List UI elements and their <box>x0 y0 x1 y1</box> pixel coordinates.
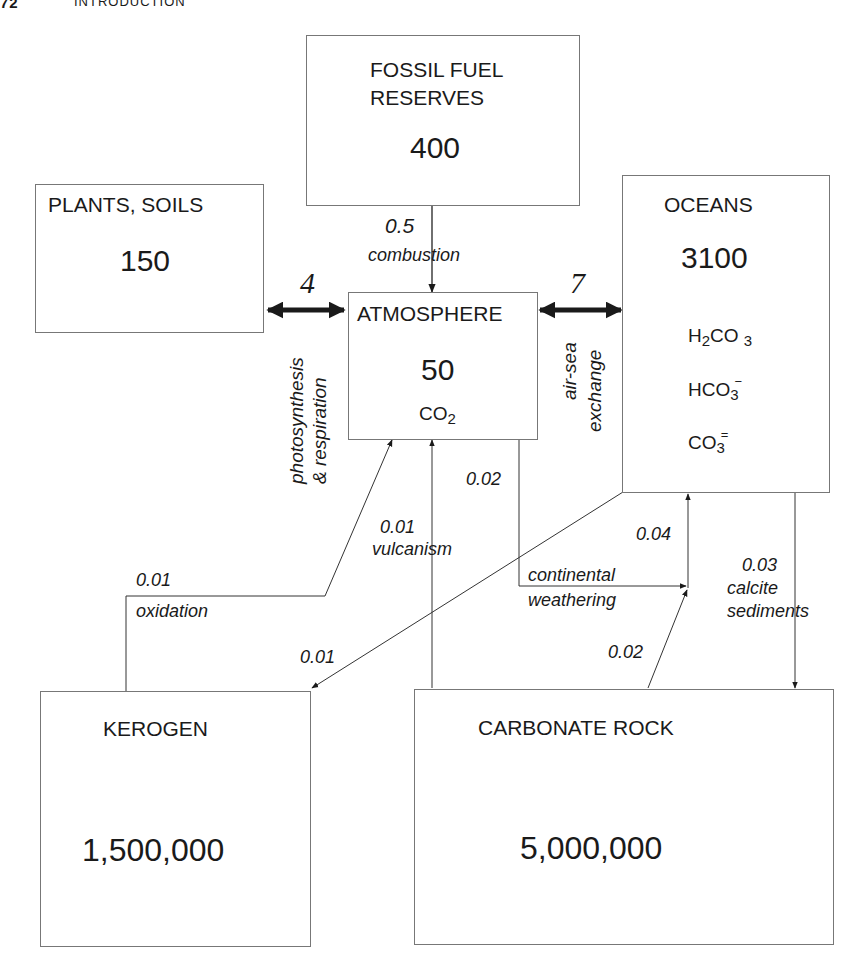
combustion-label: combustion <box>368 245 460 266</box>
atmosphere-species: CO2 <box>419 403 456 427</box>
kerogen-value: 1,500,000 <box>82 832 224 869</box>
oceans-title: OCEANS <box>664 193 753 217</box>
ocean-species-h2co3: H2CO 3 <box>688 325 752 349</box>
oceans-value: 3100 <box>681 241 748 275</box>
plants-soils-title: PLANTS, SOILS <box>48 193 203 217</box>
continental-weathering-value: 0.04 <box>636 524 671 545</box>
calcite-label-1: calcite <box>727 578 778 599</box>
air-sea-label-2: exchange <box>584 350 606 432</box>
ocean-species-co3: CO3= <box>688 432 728 456</box>
ocean-species-hco3: HCO3− <box>688 379 742 403</box>
fossil-fuel-value: 400 <box>410 131 460 165</box>
calcite-value: 0.03 <box>742 555 777 576</box>
oxidation-label: oxidation <box>136 601 208 622</box>
fossil-fuel-title-1: FOSSIL FUEL <box>370 58 503 82</box>
kerogen-title: KEROGEN <box>103 717 208 741</box>
carbonate-weathering-arrow <box>648 590 687 688</box>
carbonate-rock-value: 5,000,000 <box>520 830 662 867</box>
vulcanism-value: 0.01 <box>380 517 415 538</box>
photosynthesis-label-1: photosynthesis <box>286 357 308 484</box>
continental-weathering-label-1: continental <box>528 565 615 586</box>
fossil-fuel-title-2: RESERVES <box>370 86 484 110</box>
continental-weathering-label-2: weathering <box>528 590 616 611</box>
ocean-to-kerogen-value: 0.01 <box>300 647 335 668</box>
photosynthesis-value: 4 <box>300 266 315 300</box>
atmosphere-value: 50 <box>421 353 454 387</box>
calcite-label-2: sediments <box>727 601 809 622</box>
plants-soils-value: 150 <box>120 244 170 278</box>
weathering-atm-value: 0.02 <box>466 469 501 490</box>
carbonate-weathering-value: 0.02 <box>608 642 643 663</box>
photosynthesis-label-2: & respiration <box>309 377 331 484</box>
atmosphere-title: ATMOSPHERE <box>357 302 502 326</box>
air-sea-value: 7 <box>570 266 585 300</box>
combustion-value: 0.5 <box>385 214 414 238</box>
oxidation-value: 0.01 <box>136 570 171 591</box>
vulcanism-label: vulcanism <box>372 539 452 560</box>
oxidation-arrow <box>126 440 392 692</box>
carbonate-rock-title: CARBONATE ROCK <box>478 716 674 740</box>
air-sea-label-1: air-sea <box>559 342 581 400</box>
